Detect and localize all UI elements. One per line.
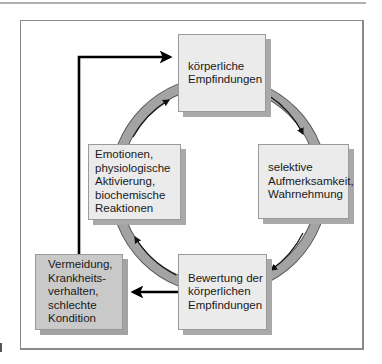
node-text-line: Aufmerksamkeit, [268,175,348,189]
node-text-line: körperlichen [188,285,266,299]
node-text-line: körperliche [188,60,265,74]
node-koerperliche-empfindungen: körperliche Empfindungen [178,34,266,112]
node-text-line: Empfindungen [188,73,265,87]
node-text-line: verhalten, [48,285,122,299]
node-selektive-aufmerksamkeit: selektive Aufmerksamkeit, Wahrnehmung [258,144,349,219]
node-text-line: Wahrnehmung [268,188,348,202]
node-vermeidung: Vermeidung, Krankheits- verhalten, schle… [35,254,123,330]
node-text-line: Bewertung der [188,272,266,286]
node-text-line: schlechte [48,299,122,313]
node-text-line: Empfindungen [188,299,266,313]
node-bewertung: Bewertung der körperlichen Empfindungen [178,254,267,330]
node-emotionen: Emotionen, physiologische Aktivierung, b… [88,144,181,220]
margin-mark [0,343,2,352]
node-text-line: Aktivierung, [95,175,180,189]
node-text-line: biochemische [95,189,180,203]
node-text-line: Vermeidung, [48,258,122,272]
node-text-line: Reaktionen [95,202,180,216]
node-text-line: physiologische [95,162,180,176]
node-text-line: selektive [268,161,348,175]
node-text-line: Kondition [48,312,122,326]
node-text-line: Krankheits- [48,272,122,286]
node-text-line: Emotionen, [95,148,180,162]
